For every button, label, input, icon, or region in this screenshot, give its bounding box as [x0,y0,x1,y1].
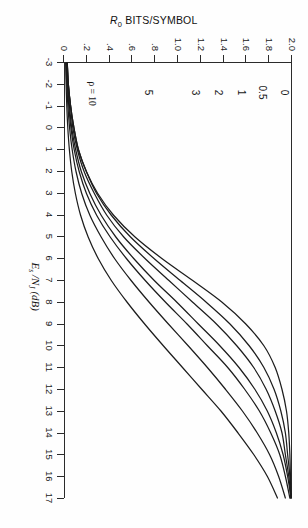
y-tick-label-1.4: 1.4 [218,0,229,51]
x-tick-label-14: 14 [44,427,55,438]
x-tick-0 [57,127,64,128]
x-tick-3 [57,193,64,194]
x-tick-label--3: -3 [44,58,55,66]
x-tick-8 [57,302,64,303]
figure-page: -3-2-101234567891011121314151617 0.2.4.6… [0,0,308,528]
y-tick-label-1.6: 1.6 [241,0,252,51]
x-tick-2 [57,171,64,172]
curve-rho-10 [66,63,278,498]
y-tick-1.4 [223,55,224,62]
curves-svg [65,63,291,498]
y-tick-2.0 [291,55,292,62]
curve-rho-3 [66,63,289,498]
x-tick-17 [57,498,64,499]
x-tick-label-3: 3 [44,190,55,195]
y-tick-1.0 [177,55,178,62]
x-tick-label-9: 9 [44,321,55,326]
x-tick-9 [57,324,64,325]
y-tick-1.6 [245,55,246,62]
y-tick-.8 [154,55,155,62]
curve-label-rho-2: 2 [212,90,223,96]
x-tick-6 [57,258,64,259]
y-axis-title: R0 BITS/SYMBOL [110,14,198,29]
x-tick-16 [57,476,64,477]
curve-label-rho-1: 1 [235,90,246,96]
x-tick-label-0: 0 [44,125,55,130]
x-tick-label-6: 6 [44,256,55,261]
y-tick-label-1.8: 1.8 [264,0,275,51]
x-tick-label-10: 10 [44,340,55,351]
x-tick-15 [57,454,64,455]
x-tick--2 [57,84,64,85]
curve-label-rho-0.5: 0.5 [257,86,268,100]
y-tick-.6 [131,55,132,62]
x-tick--1 [57,106,64,107]
x-tick-label--2: -2 [44,80,55,88]
x-tick-label-1: 1 [44,147,55,152]
x-tick-label-8: 8 [44,299,55,304]
y-tick-label-0: 0 [59,0,70,51]
x-tick-label-5: 5 [44,234,55,239]
plot-area [64,62,292,498]
y-tick-0 [63,55,64,62]
y-tick-.4 [109,55,110,62]
y-tick-label-2.0: 2.0 [287,0,298,51]
curve-label-rho-0: 0 [279,90,290,96]
x-tick-label--1: -1 [44,101,55,109]
curve-label-rho-5: 5 [143,90,154,96]
x-tick-label-13: 13 [44,406,55,417]
x-axis-title: Es /NJ (dB) [27,263,42,311]
rotated-figure-wrapper: -3-2-101234567891011121314151617 0.2.4.6… [0,0,308,528]
x-tick-label-7: 7 [44,277,55,282]
chart-figure: -3-2-101234567891011121314151617 0.2.4.6… [0,0,308,528]
x-tick-11 [57,367,64,368]
curve-rho-5 [66,63,285,498]
x-tick-14 [57,433,64,434]
y-tick-label-.2: .2 [81,0,92,51]
curve-label-rho-3: 3 [190,90,201,96]
x-tick-13 [57,411,64,412]
x-tick-label-12: 12 [44,384,55,395]
x-tick-label-2: 2 [44,168,55,173]
x-tick-10 [57,345,64,346]
x-tick-1 [57,149,64,150]
y-tick-1.2 [200,55,201,62]
x-tick-label-11: 11 [44,362,55,372]
y-tick-.2 [86,55,87,62]
x-tick--3 [57,62,64,63]
x-tick-label-15: 15 [44,449,55,460]
x-tick-5 [57,236,64,237]
x-tick-7 [57,280,64,281]
x-tick-label-4: 4 [44,212,55,217]
x-tick-4 [57,215,64,216]
curve-label-rho-10: ρ = 10 [88,81,98,105]
x-tick-label-17: 17 [44,493,55,504]
y-tick-1.8 [268,55,269,62]
x-tick-12 [57,389,64,390]
x-tick-label-16: 16 [44,471,55,482]
